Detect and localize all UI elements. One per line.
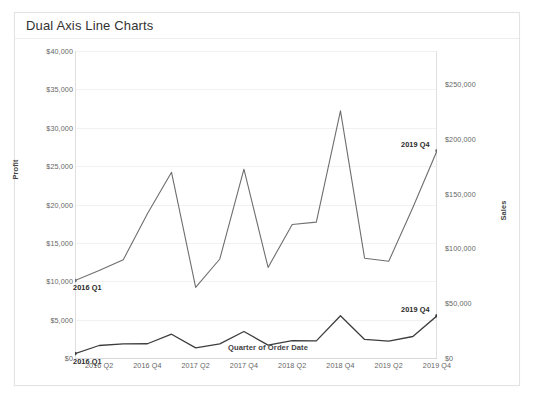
- visualization-frame: Dual Axis Line Charts $0$5,000$10,000$15…: [14, 12, 520, 386]
- series-endpoint-marker: [75, 352, 77, 356]
- x-axis-tick: 2019 Q2: [375, 361, 403, 370]
- y-axis-left-tick: $35,000: [46, 85, 73, 94]
- x-axis: 2016 Q22016 Q42017 Q22017 Q42018 Q22018 …: [75, 361, 437, 377]
- y-axis-left-tick: $20,000: [46, 200, 73, 209]
- y-axis-left-tick: $10,000: [46, 277, 73, 286]
- page-title: Dual Axis Line Charts: [15, 18, 153, 33]
- x-axis-tick: 2018 Q4: [326, 361, 354, 370]
- data-point-label: 2016 Q1: [73, 283, 102, 292]
- chart-screenshot: Dual Axis Line Charts $0$5,000$10,000$15…: [0, 0, 534, 402]
- y-axis-left-tick: $40,000: [46, 47, 73, 56]
- y-axis-left-tick: $15,000: [46, 238, 73, 247]
- series-line-profit: [75, 111, 437, 288]
- series-endpoint-marker: [435, 149, 437, 153]
- data-point-label: 2019 Q4: [401, 140, 430, 149]
- y-axis-left-tick: $5,000: [50, 315, 73, 324]
- y-axis-right: $0$50,000$100,000$150,000$200,000$250,00…: [445, 51, 503, 358]
- x-axis-tick: 2019 Q4: [423, 361, 451, 370]
- data-point-label: 2019 Q4: [401, 305, 430, 314]
- y-axis-right-tick: $100,000: [445, 244, 476, 253]
- y-axis-right-title: Sales: [499, 201, 508, 221]
- y-axis-left-tick: $0: [65, 354, 73, 363]
- x-axis-tick: 2017 Q4: [230, 361, 258, 370]
- y-axis-left-title: Profit: [11, 160, 20, 180]
- x-axis-tick: 2016 Q2: [85, 361, 113, 370]
- y-axis-right-tick: $250,000: [445, 79, 476, 88]
- plot-area: 2016 Q12016 Q12019 Q42019 Q4: [75, 51, 437, 358]
- x-axis-tick: 2017 Q2: [182, 361, 210, 370]
- y-axis-left-tick: $25,000: [46, 162, 73, 171]
- y-axis-right-tick: $150,000: [445, 189, 476, 198]
- y-axis-right-tick: $50,000: [445, 299, 472, 308]
- x-axis-tick: 2018 Q2: [278, 361, 306, 370]
- chart-lines: [75, 51, 437, 358]
- x-axis-tick: 2016 Q4: [133, 361, 161, 370]
- y-axis-right-tick: $200,000: [445, 134, 476, 143]
- y-axis-left-tick: $30,000: [46, 123, 73, 132]
- y-axis-left: $0$5,000$10,000$15,000$20,000$25,000$30,…: [29, 51, 73, 358]
- series-endpoint-marker: [75, 279, 77, 283]
- x-axis-title: Quarter of Order Date: [15, 343, 521, 352]
- title-bar: Dual Axis Line Charts: [15, 13, 519, 39]
- axis-rule-bottom: [75, 358, 437, 359]
